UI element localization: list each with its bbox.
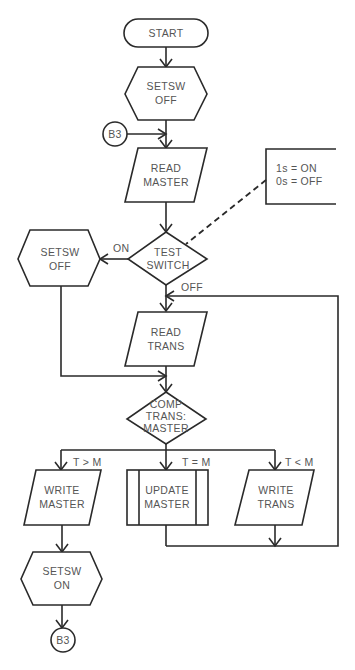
write-trans-node: WRITE TRANS	[235, 470, 314, 525]
edge-label-eq: T = M	[182, 456, 210, 468]
node-text: TRANS	[147, 340, 184, 352]
annotation: 1s = ON 0s = OFF	[266, 149, 336, 204]
setsw-off-top-node: SETSW OFF	[125, 67, 207, 120]
connector-b3-in: B3	[103, 122, 127, 146]
node-text: TEST	[154, 246, 182, 258]
node-text: SETSW	[43, 565, 82, 577]
connector-label: B3	[108, 128, 121, 140]
test-switch-decision: TEST SWITCH	[128, 232, 207, 285]
node-text: UPDATE	[145, 484, 189, 496]
annotation-text: 1s = ON	[276, 162, 317, 174]
annotation-dashed-line	[186, 180, 266, 244]
node-text: WRITE	[258, 484, 293, 496]
node-text: TRANS:	[146, 410, 186, 422]
node-text: READ	[151, 326, 181, 338]
edge-label-gt: T > M	[73, 456, 101, 468]
node-text: MASTER	[39, 498, 85, 510]
node-text: TRANS	[257, 498, 294, 510]
setsw-on-node: SETSW ON	[21, 552, 102, 605]
node-text: OFF	[49, 260, 71, 272]
node-text: MASTER	[143, 422, 189, 434]
node-text: SETSW	[41, 246, 80, 258]
flowchart: START SETSW OFF B3 READ MASTER 1s = ON 0…	[0, 0, 355, 670]
read-trans-node: READ TRANS	[125, 312, 207, 366]
start-label: START	[149, 27, 184, 39]
comp-trans-master-decision: COMP TRANS: MASTER	[127, 392, 206, 444]
node-text: OFF	[155, 94, 177, 106]
edge-label-lt: T < M	[285, 456, 313, 468]
node-text: COMP	[150, 398, 183, 410]
annotation-text: 0s = OFF	[276, 175, 322, 187]
node-text: READ	[151, 162, 181, 174]
edge-label-off: OFF	[181, 281, 203, 293]
node-text: SETSW	[147, 80, 186, 92]
setsw-off-left-node: SETSW OFF	[18, 230, 100, 286]
node-text: WRITE	[44, 484, 79, 496]
connector-b3-out: B3	[51, 628, 75, 652]
read-master-node: READ MASTER	[125, 148, 207, 202]
connector-label: B3	[56, 634, 69, 646]
update-master-node: UPDATE MASTER	[127, 470, 208, 525]
node-text: MASTER	[144, 498, 190, 510]
node-text: MASTER	[143, 176, 189, 188]
node-text: ON	[54, 579, 70, 591]
edge-label-on: ON	[113, 242, 129, 254]
node-text: SWITCH	[146, 259, 189, 271]
start-terminator: START	[124, 19, 208, 47]
write-master-node: WRITE MASTER	[24, 470, 101, 525]
